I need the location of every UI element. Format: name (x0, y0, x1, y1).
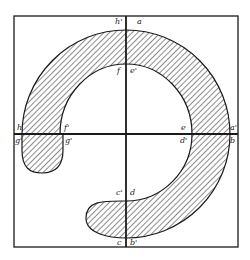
label-d-prime: d' (180, 137, 187, 145)
annulus-diagram (0, 0, 250, 260)
label-e: e (181, 124, 186, 132)
lower-right-band (86, 134, 230, 238)
label-d: d (130, 189, 135, 197)
label-c: c (117, 239, 121, 247)
label-h-prime: h' (115, 18, 122, 26)
label-f-prime: f' (64, 124, 69, 132)
label-g-prime: g' (15, 137, 22, 145)
label-f: f (117, 67, 120, 75)
label-e-prime: e' (130, 67, 137, 75)
left-lobe (22, 134, 63, 173)
label-g-double-prime: g' (65, 137, 72, 145)
label-a-prime: a' (230, 124, 237, 132)
label-b-prime: b' (130, 239, 137, 247)
label-h: h (17, 124, 22, 132)
label-c-prime: c' (116, 189, 123, 197)
label-a: a (137, 18, 142, 26)
label-b: b (230, 137, 235, 145)
